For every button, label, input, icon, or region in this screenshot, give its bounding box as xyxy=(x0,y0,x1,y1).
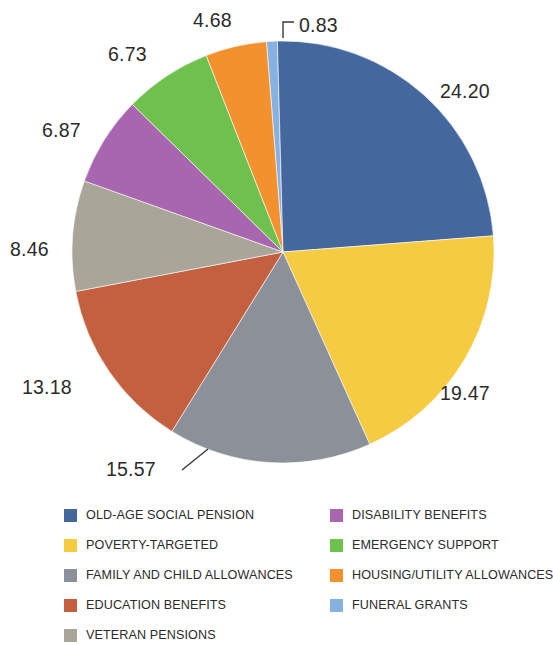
slice-value-label: 6.73 xyxy=(108,43,147,65)
legend-item[interactable]: EDUCATION BENEFITS xyxy=(64,590,314,620)
legend-swatch-icon xyxy=(64,539,77,552)
slice-value-label: 15.57 xyxy=(106,458,156,480)
legend-item[interactable]: POVERTY-TARGETED xyxy=(64,530,314,560)
slice-value-label: 19.47 xyxy=(440,382,490,404)
legend-swatch-icon xyxy=(330,509,343,522)
legend-swatch-icon xyxy=(64,509,77,522)
legend-item[interactable]: HOUSING/UTILITY ALLOWANCES xyxy=(330,560,530,590)
legend-item-label: EMERGENCY SUPPORT xyxy=(352,538,499,552)
legend-column-right: DISABILITY BENEFITSEMERGENCY SUPPORTHOUS… xyxy=(330,500,530,620)
legend-swatch-icon xyxy=(330,539,343,552)
legend-item-label: FAMILY AND CHILD ALLOWANCES xyxy=(86,568,293,582)
legend-item-label: FUNERAL GRANTS xyxy=(352,598,468,612)
legend-item[interactable]: VETERAN PENSIONS xyxy=(64,620,314,645)
pie-slices xyxy=(72,41,494,463)
legend-swatch-icon xyxy=(64,599,77,612)
leader-line xyxy=(283,22,294,38)
chart-legend: OLD-AGE SOCIAL PENSIONPOVERTY-TARGETEDFA… xyxy=(64,500,530,645)
pie-slice[interactable] xyxy=(277,41,493,252)
slice-value-label: 6.87 xyxy=(42,119,81,141)
legend-swatch-icon xyxy=(64,629,77,642)
slice-value-label: 8.46 xyxy=(10,238,49,260)
legend-swatch-icon xyxy=(330,599,343,612)
slice-value-label: 4.68 xyxy=(193,9,232,31)
legend-item-label: VETERAN PENSIONS xyxy=(86,628,216,642)
slice-value-label: 13.18 xyxy=(22,376,72,398)
legend-item-label: HOUSING/UTILITY ALLOWANCES xyxy=(352,568,553,582)
pie-svg: 0.8324.2019.4715.5713.188.466.876.734.68 xyxy=(0,0,530,500)
legend-column-left: OLD-AGE SOCIAL PENSIONPOVERTY-TARGETEDFA… xyxy=(64,500,314,645)
leader-line xyxy=(182,449,208,470)
pie-plot-area: 0.8324.2019.4715.5713.188.466.876.734.68 xyxy=(0,0,530,500)
legend-item-label: DISABILITY BENEFITS xyxy=(352,508,487,522)
legend-item-label: OLD-AGE SOCIAL PENSION xyxy=(86,508,254,522)
legend-swatch-icon xyxy=(64,569,77,582)
legend-item[interactable]: OLD-AGE SOCIAL PENSION xyxy=(64,500,314,530)
slice-value-label: 24.20 xyxy=(440,80,490,102)
slice-value-label: 0.83 xyxy=(299,14,338,36)
legend-item-label: EDUCATION BENEFITS xyxy=(86,598,226,612)
legend-item[interactable]: DISABILITY BENEFITS xyxy=(330,500,530,530)
legend-item[interactable]: FAMILY AND CHILD ALLOWANCES xyxy=(64,560,314,590)
legend-item[interactable]: EMERGENCY SUPPORT xyxy=(330,530,530,560)
legend-item-label: POVERTY-TARGETED xyxy=(86,538,218,552)
legend-item[interactable]: FUNERAL GRANTS xyxy=(330,590,530,620)
legend-swatch-icon xyxy=(330,569,343,582)
